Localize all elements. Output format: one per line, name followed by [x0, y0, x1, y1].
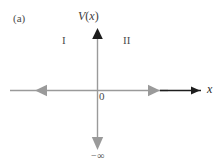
- v-axis-label: V(x): [78, 10, 99, 22]
- v-axis-label-variable: x: [89, 9, 94, 23]
- v-axis-down-arrowhead-icon: [92, 137, 103, 150]
- region-two-label: II: [123, 35, 130, 46]
- panel-label: (a): [13, 13, 25, 24]
- x-axis-label: x: [207, 83, 212, 95]
- potential-right-arrowhead-icon: [148, 85, 160, 96]
- potential-left-arrowhead-icon: [35, 85, 47, 96]
- origin-label: 0: [99, 91, 105, 102]
- potential-energy-diagram: (a) V(x) I II 0 x −∞: [0, 0, 222, 168]
- v-axis-up-arrowhead-icon: [92, 28, 103, 39]
- region-one-label: I: [62, 35, 66, 46]
- axes-drawing: [0, 0, 222, 168]
- x-axis-right-arrowhead-icon: [191, 86, 200, 94]
- negative-infinity-label: −∞: [91, 151, 105, 161]
- v-axis-label-function: V: [78, 9, 85, 23]
